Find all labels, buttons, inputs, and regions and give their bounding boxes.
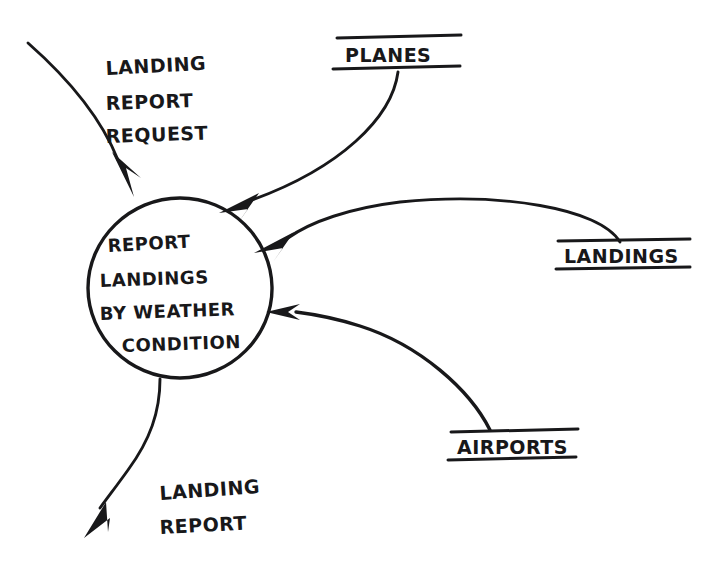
dfd-drawing: PLANES LANDINGS AIRPORTS REPORT LANDINGS… [0, 0, 713, 573]
store-planes-top-line [337, 35, 461, 38]
data-store-airports[interactable]: AIRPORTS [448, 429, 578, 460]
dfd-canvas: PLANES LANDINGS AIRPORTS REPORT LANDINGS… [0, 0, 713, 573]
flow-line-landings [288, 199, 620, 242]
process-label-line-4: CONDITION [121, 331, 241, 356]
flow-landing-report[interactable] [84, 379, 160, 538]
flow-label-landing-report: LANDING REPORT [159, 475, 261, 538]
flow-label-landing-report-request: LANDING REPORT REQUEST [105, 52, 208, 147]
store-landings-label: LANDINGS [564, 245, 679, 267]
report-label-line-2: REPORT [159, 511, 247, 538]
store-landings-top-line [558, 239, 690, 241]
flow-line-report [100, 379, 160, 508]
report-label-line-1: LANDING [159, 475, 261, 504]
flow-line-airports [296, 312, 490, 430]
store-airports-top-line [451, 429, 578, 432]
arrowhead-request [112, 152, 141, 197]
store-airports-label: AIRPORTS [457, 436, 568, 458]
flow-from-airports[interactable] [266, 304, 490, 430]
process-label-line-1: REPORT [107, 231, 191, 256]
store-planes-label: PLANES [345, 44, 431, 66]
arrowhead-report [84, 502, 110, 538]
data-store-landings[interactable]: LANDINGS [556, 239, 690, 269]
request-label-line-2: REPORT [105, 89, 193, 114]
request-label-line-3: REQUEST [105, 121, 208, 147]
request-label-line-1: LANDING [105, 52, 207, 79]
flow-from-planes[interactable] [219, 72, 398, 223]
process-label-line-3: BY WEATHER [99, 298, 235, 324]
flow-line-planes [252, 72, 398, 200]
store-planes-bottom-line [333, 66, 460, 69]
process-label-group: REPORT LANDINGS BY WEATHER CONDITION [99, 231, 241, 356]
data-store-planes[interactable]: PLANES [333, 35, 461, 69]
process-label-line-2: LANDINGS [99, 266, 209, 291]
store-landings-bottom-line [556, 267, 690, 269]
